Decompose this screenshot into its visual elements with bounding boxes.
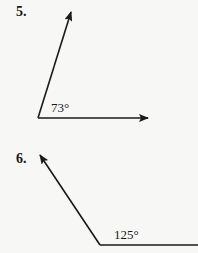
angle-diagrams [0,0,198,253]
angle-6 [40,155,198,245]
angle-5 [38,12,148,118]
angle-6-ray-up-left [40,155,100,245]
angle-5-ray-up [38,12,71,118]
